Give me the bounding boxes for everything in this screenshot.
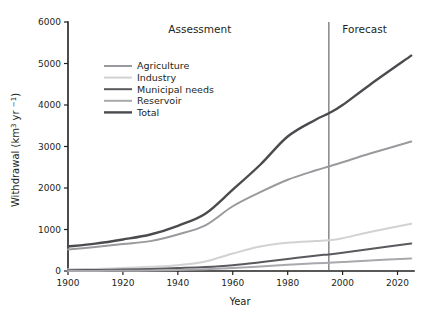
y-tick-label: 5000 — [38, 59, 61, 69]
chart-legend: AgricultureIndustryMunicipal needsReserv… — [104, 60, 214, 117]
y-tick-label: 1000 — [38, 225, 61, 235]
y-axis-tick-labels: 0100020003000400050006000 — [38, 17, 61, 276]
x-axis-title: Year — [228, 296, 251, 307]
x-tick-label: 2020 — [386, 278, 409, 288]
series-lines — [68, 56, 411, 271]
series-line-total — [68, 56, 411, 247]
assessment-label: Assessment — [168, 23, 231, 35]
x-tick-label: 2000 — [331, 278, 354, 288]
y-axis-title: Withdrawal (km3 yr −1) — [10, 93, 21, 207]
water-withdrawal-chart-figure: 0100020003000400050006000 19001920194019… — [0, 0, 424, 314]
legend-label-total: Total — [136, 107, 159, 118]
forecast-label: Forecast — [342, 23, 386, 35]
x-tick-label: 1980 — [276, 278, 299, 288]
x-axis-tick-labels: 1900192019401960198020002020 — [57, 278, 410, 288]
y-tick-label: 6000 — [38, 17, 61, 27]
series-line-agriculture — [68, 142, 411, 250]
legend-label-municipal-needs: Municipal needs — [137, 84, 214, 95]
chart-canvas: 0100020003000400050006000 19001920194019… — [0, 0, 424, 314]
y-tick-label: 0 — [55, 266, 61, 276]
legend-label-agriculture: Agriculture — [137, 60, 189, 71]
series-line-industry — [68, 224, 411, 270]
y-tick-label: 2000 — [38, 183, 61, 193]
x-tick-label: 1960 — [221, 278, 244, 288]
legend-label-reservoir: Reservoir — [137, 95, 182, 106]
y-tick-label: 3000 — [38, 142, 61, 152]
x-tick-label: 1920 — [111, 278, 134, 288]
y-tick-label: 4000 — [38, 100, 61, 110]
x-tick-label: 1940 — [166, 278, 189, 288]
x-tick-label: 1900 — [57, 278, 80, 288]
series-line-municipal-needs — [68, 244, 411, 271]
legend-label-industry: Industry — [137, 72, 176, 83]
